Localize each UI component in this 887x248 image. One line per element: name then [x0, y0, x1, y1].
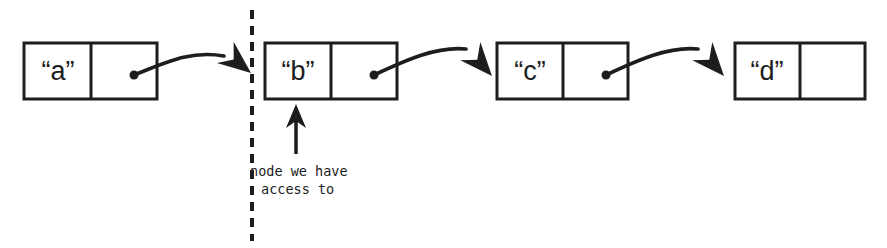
list-node-d: “d”: [735, 43, 865, 99]
annotation-line-1: node we have: [250, 163, 348, 179]
node-d-value-label: “d”: [751, 56, 784, 86]
list-node-c: “c”: [497, 43, 628, 99]
diagram-canvas: “a” “b” “c” “d”: [0, 0, 887, 248]
list-node-a: “a”: [24, 43, 157, 99]
node-a-value-label: “a”: [42, 56, 75, 86]
annotation-up-arrow: [286, 104, 306, 154]
node-c-value-label: “c”: [514, 56, 545, 86]
access-annotation-text: node we have access to: [250, 163, 348, 197]
annotation-line-2: access to: [261, 181, 334, 197]
list-node-b: “b”: [265, 43, 397, 99]
node-b-value-label: “b”: [282, 56, 315, 86]
linked-list-diagram: “a” “b” “c” “d”: [0, 0, 887, 248]
